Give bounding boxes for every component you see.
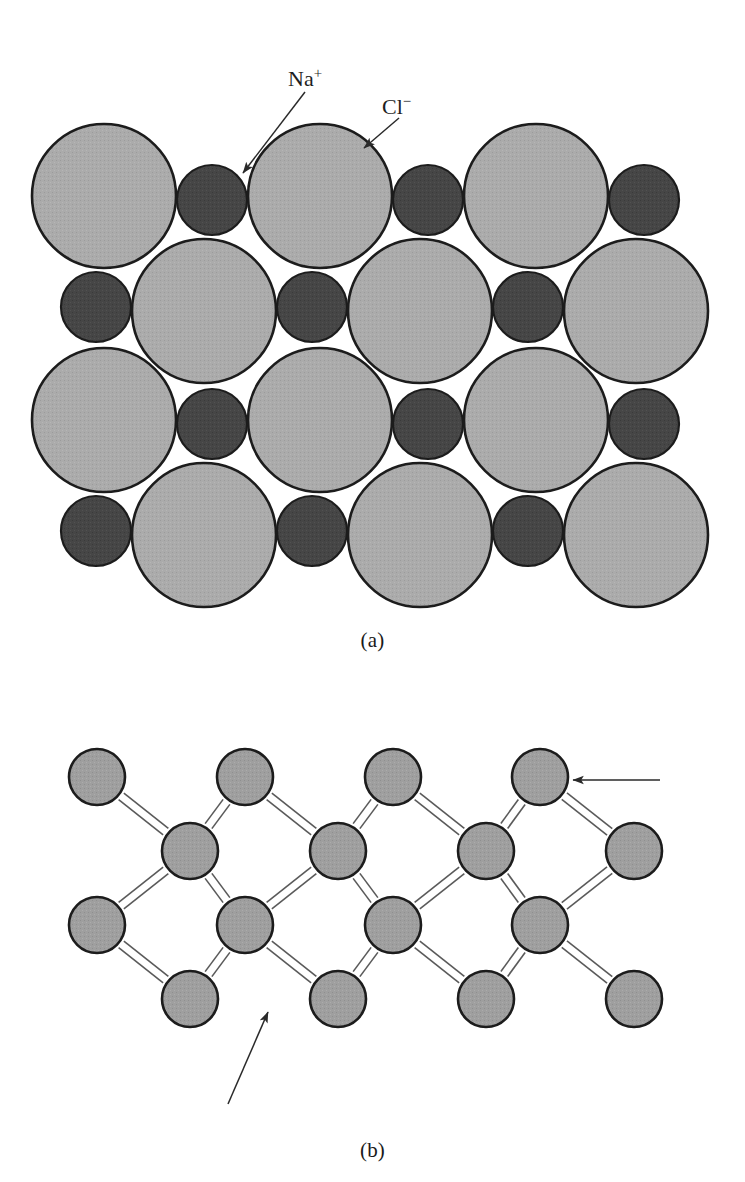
cation-sphere-na (277, 272, 347, 342)
silicon-atom (365, 749, 421, 805)
covalent-lattice-diagram (0, 700, 745, 1182)
covalent-bond-double-line (562, 867, 612, 909)
silicon-atom (217, 749, 273, 805)
silicon-atom (69, 749, 125, 805)
silicon-atom (217, 897, 273, 953)
panel-covalent-si: Si Two electrons per bond (0, 700, 745, 1182)
anion-sphere-cl (132, 463, 276, 607)
cation-sphere-na (393, 165, 463, 235)
anion-sphere-cl (464, 348, 608, 492)
covalent-bond-double-line (267, 793, 317, 835)
covalent-bond-double-line (353, 947, 378, 976)
covalent-bond-double-line (501, 948, 525, 977)
cation-sphere-na (177, 165, 247, 235)
covalent-bond-double-line (501, 800, 525, 829)
silicon-atom (69, 897, 125, 953)
silicon-atom (162, 971, 218, 1027)
anion-sphere-cl (348, 239, 492, 383)
anion-sphere-cl (564, 463, 708, 607)
cation-sphere-na (493, 272, 563, 342)
covalent-bond-double-line (119, 867, 169, 909)
covalent-bond-double-line (119, 941, 169, 983)
silicon-atom (512, 749, 568, 805)
covalent-bond-double-line (562, 941, 612, 983)
anion-sphere-cl (464, 124, 608, 268)
covalent-bond-double-line (205, 799, 230, 828)
label-na-cation: Na+ (288, 68, 322, 90)
cation-sphere-na (61, 272, 131, 342)
anion-sphere-cl (564, 239, 708, 383)
covalent-bond-double-line (353, 799, 378, 828)
silicon-atom (606, 823, 662, 879)
covalent-bond-double-line (501, 874, 525, 903)
silicon-atom (458, 971, 514, 1027)
cation-sphere-na (609, 389, 679, 459)
panel-b-caption: (b) (0, 1138, 745, 1163)
anion-sphere-cl (248, 348, 392, 492)
panel-a-caption: (a) (0, 628, 745, 653)
anion-sphere-cl (248, 124, 392, 268)
silicon-atom (310, 971, 366, 1027)
silicon-atom (162, 823, 218, 879)
covalent-bond-double-line (415, 941, 465, 983)
cation-sphere-na (393, 389, 463, 459)
covalent-annotation-arrows (228, 780, 660, 1104)
panel-ionic-nacl: Na+ Cl− (0, 0, 745, 700)
anion-sphere-cl (132, 239, 276, 383)
covalent-bond-group (119, 793, 613, 983)
label-cl-anion: Cl− (382, 96, 411, 118)
cation-sphere-na (277, 496, 347, 566)
covalent-bond-double-line (205, 873, 230, 902)
silicon-atom (310, 823, 366, 879)
silicon-atom (606, 971, 662, 1027)
cation-sphere-na (61, 496, 131, 566)
covalent-bond-double-line (415, 867, 465, 909)
covalent-bond-double-line (267, 867, 317, 909)
covalent-bond-double-line (205, 947, 230, 976)
covalent-bond-double-line (267, 941, 317, 983)
cation-sphere-na (177, 389, 247, 459)
anion-sphere-cl (32, 348, 176, 492)
covalent-bond-double-line (353, 873, 378, 902)
figure-root: Na+ Cl− (a) Si Two electrons per bond (b… (0, 0, 745, 1182)
anion-sphere-cl (32, 124, 176, 268)
silicon-atom (365, 897, 421, 953)
ion-sphere-group (32, 124, 708, 607)
cation-sphere-na (609, 165, 679, 235)
covalent-bond-double-line (119, 793, 169, 835)
silicon-atom (458, 823, 514, 879)
covalent-bond-double-line (415, 793, 465, 835)
anion-sphere-cl (348, 463, 492, 607)
ionic-lattice-diagram (0, 0, 745, 700)
silicon-atom-group (69, 749, 662, 1027)
annotation-arrow-two-electrons (228, 1012, 268, 1104)
covalent-bond-double-line (562, 793, 612, 835)
silicon-atom (512, 897, 568, 953)
annotation-arrow-cl (364, 118, 399, 148)
cation-sphere-na (493, 496, 563, 566)
